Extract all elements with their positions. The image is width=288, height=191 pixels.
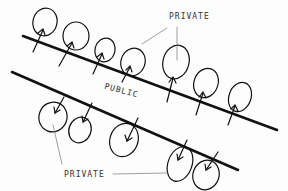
lower-lot-3 [105, 118, 143, 161]
lower-lot-5 [189, 152, 224, 191]
diagram-drawing [0, 0, 288, 191]
leader-bottom-2 [113, 173, 168, 174]
private-public-diagram: PRIVATE PUBLIC PRIVATE [0, 0, 288, 191]
lower-lot-2 [65, 103, 95, 146]
lower-lots [35, 97, 224, 191]
top-private-label: PRIVATE [169, 12, 210, 21]
bottom-private-label: PRIVATE [64, 170, 105, 179]
lower-lot-4 [163, 140, 198, 185]
upper-lot-7 [225, 79, 256, 125]
leader-top-1 [142, 28, 167, 44]
lower-lot-1 [35, 97, 72, 136]
